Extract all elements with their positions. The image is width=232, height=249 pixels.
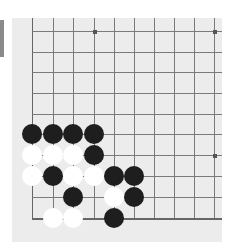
black-stone[interactable] [43, 166, 63, 186]
white-stone[interactable] [104, 187, 124, 207]
white-stone[interactable] [22, 145, 42, 165]
black-stone[interactable] [84, 145, 104, 165]
star-point [93, 30, 97, 34]
grid-line-vertical [194, 18, 195, 219]
black-stone[interactable] [63, 187, 83, 207]
white-stone[interactable] [63, 166, 83, 186]
star-point [213, 154, 217, 158]
grid-line-horizontal [32, 93, 222, 94]
black-stone[interactable] [104, 208, 124, 228]
grid-line-horizontal [32, 31, 222, 32]
white-stone[interactable] [84, 166, 104, 186]
side-panel-handle [0, 20, 4, 57]
grid-line-vertical [154, 18, 155, 219]
white-stone[interactable] [43, 208, 63, 228]
black-stone[interactable] [22, 124, 42, 144]
grid-line-horizontal [32, 114, 222, 115]
white-stone[interactable] [43, 145, 63, 165]
grid-line-vertical [53, 18, 54, 219]
black-stone[interactable] [124, 187, 144, 207]
black-stone[interactable] [43, 124, 63, 144]
white-stone[interactable] [22, 166, 42, 186]
black-stone[interactable] [63, 124, 83, 144]
grid-line-vertical [214, 18, 215, 219]
grid-line-horizontal [32, 52, 222, 53]
grid-line-vertical [94, 18, 95, 219]
grid-line-horizontal [32, 72, 222, 73]
white-stone[interactable] [63, 145, 83, 165]
black-stone[interactable] [104, 166, 124, 186]
black-stone[interactable] [124, 166, 144, 186]
grid-line-vertical [32, 18, 33, 219]
white-stone[interactable] [63, 208, 83, 228]
grid-line-vertical [174, 18, 175, 219]
star-point [213, 30, 217, 34]
black-stone[interactable] [84, 124, 104, 144]
